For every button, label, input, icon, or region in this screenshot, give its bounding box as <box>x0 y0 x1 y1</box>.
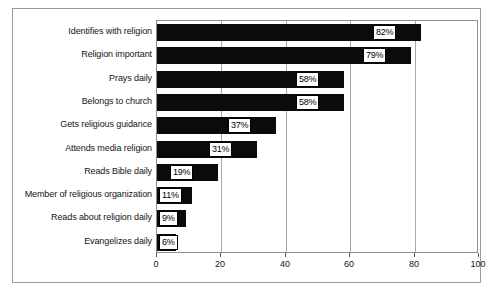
bar[interactable] <box>157 141 257 158</box>
x-tick-label: 20 <box>215 259 225 269</box>
bar-series: 82%79%58%58%37%31%19%11%9%6% <box>157 21 477 252</box>
category-label: Member of religious organization <box>25 183 152 206</box>
x-tick-mark <box>478 253 479 257</box>
category-label: Evangelizes daily <box>84 230 152 253</box>
bar-row: 9% <box>157 207 477 230</box>
chart-container: Identifies with religionReligion importa… <box>0 0 500 292</box>
x-tick-mark <box>156 253 157 257</box>
x-tick-label: 80 <box>409 259 419 269</box>
x-tick-label: 0 <box>153 259 158 269</box>
bar-value-label: 31% <box>209 142 232 157</box>
x-tick-mark <box>349 253 350 257</box>
bar-row: 31% <box>157 138 477 161</box>
category-label: Gets religious guidance <box>60 113 152 136</box>
bar[interactable] <box>157 117 276 134</box>
bar-row: 79% <box>157 44 477 67</box>
category-label-row: Attends media religion <box>13 137 152 160</box>
category-label-row: Identifies with religion <box>13 20 152 43</box>
bar-row: 19% <box>157 161 477 184</box>
bar-value-label: 19% <box>170 165 193 180</box>
category-label: Reads Bible daily <box>84 160 152 183</box>
category-label-row: Evangelizes daily <box>13 230 152 253</box>
category-label-row: Reads about religion daily <box>13 206 152 229</box>
category-label: Belongs to church <box>82 90 152 113</box>
x-tick-label: 100 <box>470 259 485 269</box>
category-label: Identifies with religion <box>68 20 152 43</box>
plot-area: 82%79%58%58%37%31%19%11%9%6% <box>156 20 478 253</box>
bar-value-label: 37% <box>228 118 251 133</box>
bar-value-label: 11% <box>159 188 182 203</box>
bar-value-label: 82% <box>373 25 396 40</box>
category-label-row: Reads Bible daily <box>13 160 152 183</box>
x-tick-label: 60 <box>344 259 354 269</box>
x-tick-mark <box>285 253 286 257</box>
chart-frame: Identifies with religionReligion importa… <box>12 8 481 283</box>
category-label: Reads about religion daily <box>51 206 152 229</box>
x-tick-mark <box>220 253 221 257</box>
bar-value-label: 79% <box>363 48 386 63</box>
bar-row: 82% <box>157 21 477 44</box>
bar-value-label: 6% <box>159 235 178 250</box>
category-label: Religion important <box>81 43 152 66</box>
x-tick-label: 40 <box>280 259 290 269</box>
category-label-row: Belongs to church <box>13 90 152 113</box>
category-label: Attends media religion <box>65 137 152 160</box>
x-axis: 020406080100 <box>156 253 478 283</box>
category-label-row: Member of religious organization <box>13 183 152 206</box>
bar-value-label: 58% <box>296 72 319 87</box>
bar-row: 6% <box>157 231 477 254</box>
category-label-row: Prays daily <box>13 67 152 90</box>
bar-row: 58% <box>157 91 477 114</box>
bar-value-label: 58% <box>296 95 319 110</box>
bar-value-label: 9% <box>159 211 178 226</box>
category-label-row: Religion important <box>13 43 152 66</box>
x-tick-mark <box>414 253 415 257</box>
bar-row: 11% <box>157 184 477 207</box>
category-label-row: Gets religious guidance <box>13 113 152 136</box>
bar-row: 37% <box>157 114 477 137</box>
bar-row: 58% <box>157 68 477 91</box>
category-axis-labels: Identifies with religionReligion importa… <box>13 20 152 253</box>
category-label: Prays daily <box>109 67 152 90</box>
